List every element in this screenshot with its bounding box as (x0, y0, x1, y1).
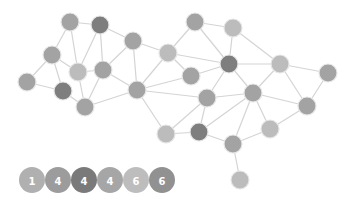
graph-node[interactable] (69, 63, 87, 81)
graph-nodes (18, 13, 337, 189)
legend-item[interactable]: 6 (123, 167, 149, 193)
graph-node[interactable] (190, 123, 208, 141)
graph-node[interactable] (18, 73, 36, 91)
graph-node[interactable] (128, 81, 146, 99)
graph-node[interactable] (231, 171, 249, 189)
graph-node[interactable] (186, 13, 204, 31)
graph-node[interactable] (319, 64, 337, 82)
graph-node[interactable] (124, 32, 142, 50)
graph-edge (137, 90, 207, 98)
graph-node[interactable] (271, 55, 289, 73)
graph-node[interactable] (182, 67, 200, 85)
graph-node[interactable] (261, 120, 279, 138)
legend-item[interactable]: 1 (19, 167, 45, 193)
graph-node[interactable] (159, 44, 177, 62)
graph-node[interactable] (298, 97, 316, 115)
legend: 144466 (19, 167, 175, 193)
legend-label: 4 (107, 176, 114, 187)
graph-node[interactable] (198, 89, 216, 107)
graph-node[interactable] (43, 46, 61, 64)
legend-label: 4 (81, 176, 88, 187)
legend-item[interactable]: 4 (71, 167, 97, 193)
graph-node[interactable] (244, 84, 262, 102)
legend-label: 4 (55, 176, 62, 187)
legend-item[interactable]: 6 (149, 167, 175, 193)
graph-edges (27, 22, 328, 180)
network-graph: 144466 (0, 0, 354, 207)
legend-item[interactable]: 4 (45, 167, 71, 193)
graph-node[interactable] (220, 55, 238, 73)
graph-node[interactable] (94, 61, 112, 79)
graph-node[interactable] (224, 19, 242, 37)
graph-node[interactable] (157, 125, 175, 143)
legend-label: 6 (133, 176, 140, 187)
graph-node[interactable] (61, 13, 79, 31)
legend-label: 1 (29, 176, 36, 187)
graph-node[interactable] (224, 135, 242, 153)
graph-node[interactable] (76, 98, 94, 116)
graph-node[interactable] (91, 16, 109, 34)
graph-node[interactable] (54, 82, 72, 100)
legend-label: 6 (159, 176, 166, 187)
legend-item[interactable]: 4 (97, 167, 123, 193)
